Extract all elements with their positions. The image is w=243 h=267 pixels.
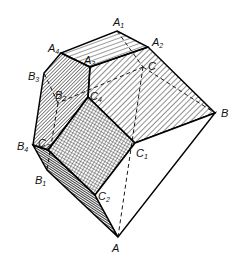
vertex-label-b4: B4 xyxy=(17,140,28,153)
vertex-label-c: C xyxy=(148,60,156,72)
vertex-label-a4: A4 xyxy=(47,42,59,55)
vertex-label-b3: B3 xyxy=(28,70,39,83)
polyhedron-diagram: A1A2A3A4CBB3B2C4B4C3C1B1C2A xyxy=(0,0,243,267)
vertex-label-a: A xyxy=(111,242,119,254)
vertex-label-a2: A2 xyxy=(151,36,163,49)
vertex-label-a1: A1 xyxy=(112,16,124,29)
vertex-label-b: B xyxy=(221,107,228,119)
vertex-label-b1: B1 xyxy=(35,174,46,187)
